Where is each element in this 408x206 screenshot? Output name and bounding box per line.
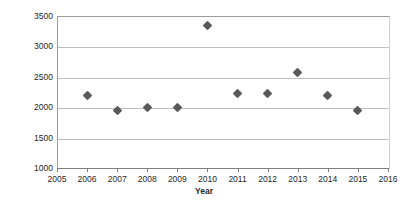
- x-axis-tick: [298, 168, 299, 172]
- x-axis-tick: [87, 168, 88, 172]
- y-axis-tick-label: 3000: [25, 42, 53, 50]
- y-axis-tick-label: 2500: [25, 73, 53, 81]
- gridline: [58, 78, 389, 79]
- x-axis-tick-label: 2016: [368, 174, 408, 184]
- gridline: [58, 108, 389, 109]
- x-axis-tick: [177, 168, 178, 172]
- x-axis-tick: [57, 168, 58, 172]
- x-axis-title: Year: [0, 186, 408, 197]
- x-axis-line: [57, 168, 389, 169]
- gridline: [58, 47, 389, 48]
- x-axis-tick: [207, 168, 208, 172]
- x-axis-tick: [328, 168, 329, 172]
- scatter-chart: Average annual rainfall (mm) 10001500200…: [0, 0, 408, 206]
- gridline: [58, 139, 389, 140]
- y-axis-tick-label: 2000: [25, 103, 53, 111]
- x-axis-tick: [117, 168, 118, 172]
- x-axis-tick: [238, 168, 239, 172]
- y-axis-tick-label: 1000: [25, 164, 53, 172]
- x-axis-tick: [147, 168, 148, 172]
- y-axis-tick-label: 3500: [25, 12, 53, 20]
- plot-area: [57, 16, 390, 169]
- y-axis-tick-label: 1500: [25, 134, 53, 142]
- x-axis-tick: [358, 168, 359, 172]
- x-axis-tick: [388, 168, 389, 172]
- x-axis-tick: [268, 168, 269, 172]
